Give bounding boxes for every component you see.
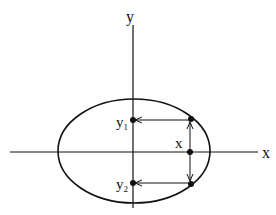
- ellipse-diagram: y x x y1 y2: [0, 0, 276, 215]
- y1-point: [130, 117, 136, 123]
- x-point: [187, 149, 193, 155]
- x-point-label: x: [175, 135, 183, 151]
- ellipse-point-upper: [188, 116, 194, 122]
- y2-point: [130, 180, 136, 186]
- ellipse-point-lower: [188, 181, 194, 187]
- y1-label: y1: [116, 114, 128, 132]
- y2-label: y2: [116, 176, 128, 194]
- x-axis-label: x: [262, 144, 270, 161]
- y-axis-label: y: [126, 8, 134, 26]
